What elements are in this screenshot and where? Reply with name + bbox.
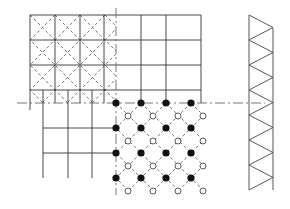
- filled-atom: [162, 149, 169, 156]
- filled-atom: [162, 99, 169, 106]
- open-atom: [200, 163, 206, 169]
- filled-atom: [137, 124, 144, 131]
- open-atom: [150, 138, 156, 144]
- open-atom: [200, 138, 206, 144]
- open-atom: [175, 163, 181, 169]
- open-atom: [125, 113, 131, 119]
- open-atom: [150, 188, 156, 194]
- open-atom: [125, 138, 131, 144]
- open-atom: [175, 188, 181, 194]
- filled-atom: [137, 149, 144, 156]
- truss-zigzag: [249, 15, 273, 190]
- atom-bond-lattice: [0, 103, 290, 193]
- diagram-canvas: [0, 0, 290, 209]
- filled-atom: [187, 149, 194, 156]
- filled-atom: [162, 174, 169, 181]
- filled-atom: [112, 124, 119, 131]
- filled-atom: [187, 99, 194, 106]
- open-atom: [150, 113, 156, 119]
- filled-atom: [187, 174, 194, 181]
- lattice-diagram: [0, 0, 290, 209]
- filled-atom: [137, 99, 144, 106]
- filled-atom: [112, 149, 119, 156]
- filled-atom: [112, 99, 119, 106]
- open-atom: [125, 163, 131, 169]
- open-atom: [150, 163, 156, 169]
- open-atom: [200, 113, 206, 119]
- filled-atom: [187, 124, 194, 131]
- open-atom: [175, 138, 181, 144]
- filled-atom: [137, 174, 144, 181]
- open-atom: [125, 188, 131, 194]
- filled-atom: [112, 174, 119, 181]
- open-atom: [175, 113, 181, 119]
- filled-atom: [162, 124, 169, 131]
- open-atom: [200, 188, 206, 194]
